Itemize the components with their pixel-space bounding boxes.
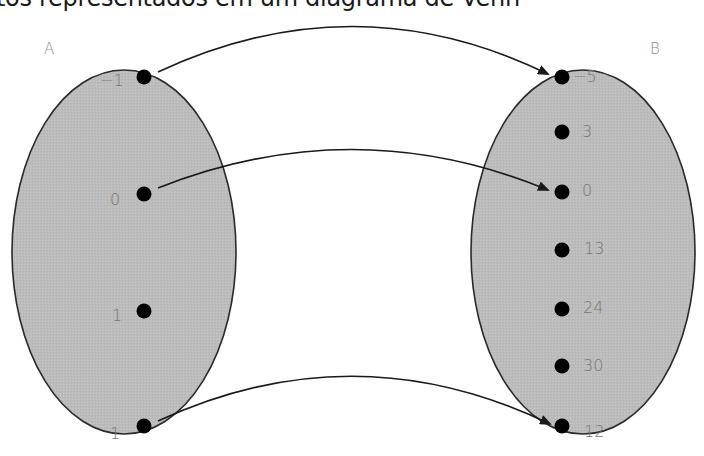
set-b-dot [555,125,570,140]
set-b-element: 30 [583,358,603,374]
set-b-dot [555,243,570,258]
mapping-arrow [158,26,548,74]
set-a-dot [137,187,152,202]
set-a-element: 1 [112,308,122,324]
set-a-element: −1 [100,73,124,89]
set-b-element: 0 [582,183,592,199]
set-b-dot [555,70,570,85]
venn-diagram [0,0,704,456]
set-b-element: 13 [584,241,604,257]
set-b-element: 24 [583,300,603,316]
set-a-dot [137,304,152,319]
set-a-element: 1 [110,426,120,442]
set-b-dot [555,302,570,317]
set-b-element: 12 [584,424,604,440]
set-a-ellipse [12,70,236,434]
set-a-label: A [44,40,54,58]
set-b-dot [555,419,570,434]
set-b-element: 3 [582,124,592,140]
set-a-dot [137,70,152,85]
set-a-element: 0 [110,192,120,208]
mapping-arrow [158,376,550,424]
set-b-dot [555,359,570,374]
set-a-dot [137,419,152,434]
set-b-label: B [650,40,660,58]
set-b-element: −5 [573,69,597,85]
set-b-dot [555,185,570,200]
